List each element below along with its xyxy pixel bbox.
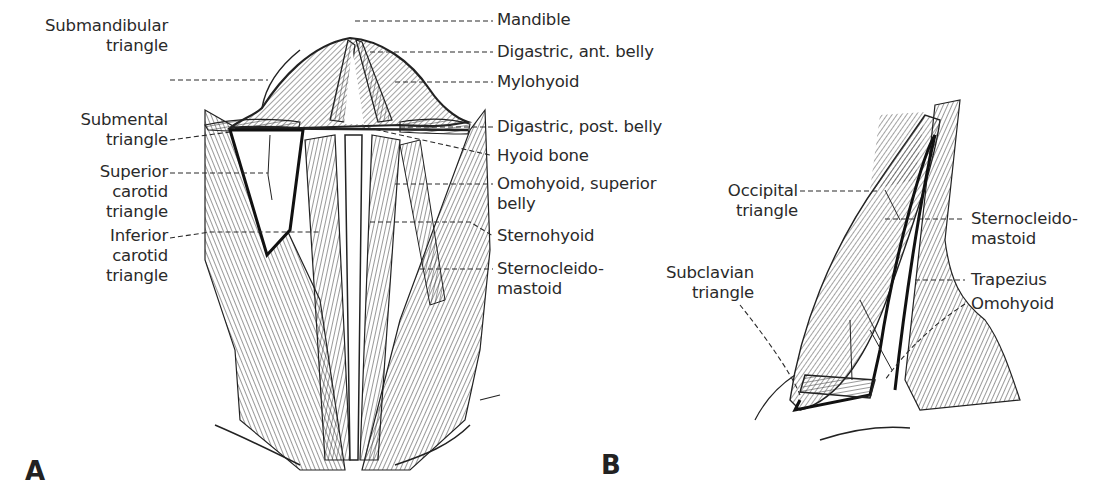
label-mylohyoid: Mylohyoid (497, 72, 579, 92)
label-digastric-ant-belly: Digastric, ant. belly (497, 42, 654, 62)
label-omohyoid-b: Omohyoid (971, 294, 1054, 314)
label-omohyoid-superior-belly: Omohyoid, superior belly (497, 174, 656, 214)
label-sternocleidomastoid-b: Sternocleido- mastoid (971, 209, 1078, 249)
label-superior-carotid-triangle: Superior carotid triangle (16, 162, 168, 222)
label-sternocleidomastoid-a: Sternocleido- mastoid (497, 259, 604, 299)
label-occipital-triangle: Occipital triangle (680, 181, 798, 221)
label-inferior-carotid-triangle: Inferior carotid triangle (16, 226, 168, 286)
panel-label-b: B (601, 450, 621, 480)
label-submandibular-triangle: Submandibular triangle (16, 16, 168, 56)
label-digastric-post-belly: Digastric, post. belly (497, 117, 662, 137)
panel-label-a: A (25, 456, 45, 486)
panel-a-drawing (205, 38, 500, 470)
label-submental-triangle: Submental triangle (16, 110, 168, 150)
label-mandible: Mandible (497, 10, 570, 30)
label-subclavian-triangle: Subclavian triangle (640, 263, 754, 303)
label-sternohyoid: Sternohyoid (497, 226, 594, 246)
label-hyoid-bone: Hyoid bone (497, 146, 589, 166)
label-trapezius: Trapezius (971, 270, 1047, 290)
